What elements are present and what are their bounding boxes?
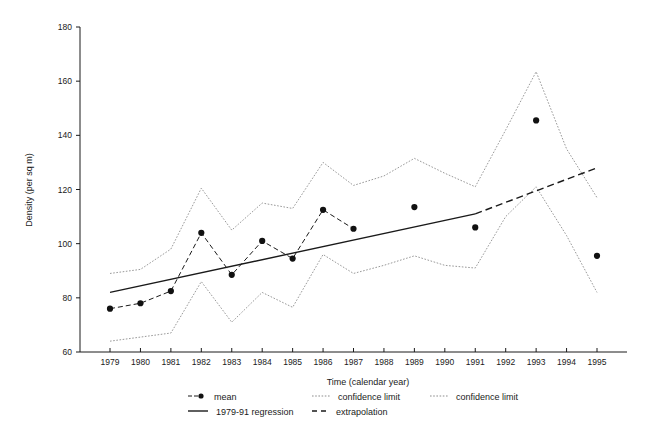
mean-data-point: [107, 306, 113, 312]
chart-figure: 6080100120140160180 19791980198119821983…: [0, 0, 658, 435]
mean-data-point: [229, 272, 235, 278]
x-tick-label: 1979: [101, 357, 120, 367]
mean-data-point: [533, 117, 539, 123]
x-tick-label: 1985: [283, 357, 302, 367]
mean-data-point: [411, 204, 417, 210]
x-tick-label: 1980: [131, 357, 150, 367]
x-tick-label: 1986: [314, 357, 333, 367]
legend-label: extrapolation: [336, 407, 388, 417]
mean-data-point: [198, 230, 204, 236]
mean-data-point: [472, 224, 478, 230]
y-tick-label: 80: [63, 293, 73, 303]
y-tick-label: 60: [63, 347, 73, 357]
y-tick-label: 100: [58, 239, 72, 249]
x-tick-label: 1988: [374, 357, 393, 367]
x-tick-label: 1983: [222, 357, 241, 367]
legend-label: confidence limit: [456, 392, 519, 402]
y-tick-label: 160: [58, 76, 72, 86]
x-tick-label: 1981: [161, 357, 180, 367]
x-tick-label: 1994: [557, 357, 576, 367]
legend-label: confidence limit: [338, 392, 401, 402]
x-tick-label: 1992: [496, 357, 515, 367]
mean-data-point: [320, 207, 326, 213]
x-tick-label: 1989: [405, 357, 424, 367]
x-tick-label: 1982: [192, 357, 211, 367]
chart-background: [0, 0, 658, 435]
legend-label: mean: [214, 392, 237, 402]
mean-data-point: [259, 238, 265, 244]
x-tick-label: 1987: [344, 357, 363, 367]
legend-swatch-dot: [198, 393, 203, 398]
mean-data-point: [168, 288, 174, 294]
x-tick-label: 1995: [588, 357, 607, 367]
legend-label: 1979-91 regression: [216, 407, 294, 417]
y-tick-label: 120: [58, 185, 72, 195]
mean-data-point: [594, 253, 600, 259]
x-axis-title: Time (calendar year): [327, 377, 410, 387]
mean-data-point: [350, 226, 356, 232]
y-tick-label: 140: [58, 130, 72, 140]
x-tick-label: 1991: [466, 357, 485, 367]
x-tick-label: 1984: [253, 357, 272, 367]
x-tick-label: 1990: [435, 357, 454, 367]
mean-data-point: [137, 300, 143, 306]
x-tick-label: 1993: [527, 357, 546, 367]
density-vs-year-chart: 6080100120140160180 19791980198119821983…: [0, 0, 658, 435]
y-tick-label: 180: [58, 22, 72, 32]
y-axis-title: Density (per sq m): [24, 153, 34, 227]
mean-data-point: [290, 255, 296, 261]
